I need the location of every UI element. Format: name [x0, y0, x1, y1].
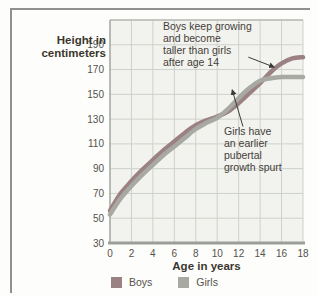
x-tick-label: 4 [150, 248, 156, 259]
growth-chart-figure: 30507090110130150170190024681012141618 H… [0, 0, 317, 296]
legend-label-girls: Girls [196, 276, 218, 288]
x-tick-label: 16 [276, 248, 288, 259]
y-tick-label: 150 [87, 89, 104, 100]
x-tick-label: 18 [297, 248, 309, 259]
y-tick-label: 130 [87, 114, 104, 125]
legend-swatch-girls [178, 277, 189, 288]
y-tick-label: 70 [93, 188, 105, 199]
x-tick-label: 12 [233, 248, 245, 259]
x-tick-label: 2 [129, 248, 135, 259]
chart-legend: Boys Girls [111, 276, 218, 288]
annotation-girls-growth-spurt: Girls have an earlier pubertal growth sp… [224, 125, 282, 173]
annotation-boys-keep-growing: Boys keep growing and become taller than… [163, 20, 252, 68]
y-tick-label: 110 [88, 138, 104, 149]
x-axis-title: Age in years [110, 260, 303, 272]
legend-swatch-boys [111, 277, 122, 288]
y-tick-label: 170 [87, 64, 104, 75]
legend-item-boys: Boys [111, 276, 152, 288]
x-tick-label: 0 [107, 248, 113, 259]
x-tick-label: 10 [212, 248, 224, 259]
x-tick-label: 6 [172, 248, 178, 259]
y-tick-label: 30 [93, 238, 105, 249]
y-axis-title: Height in centimeters [16, 34, 106, 60]
x-tick-label: 14 [255, 248, 267, 259]
y-tick-label: 50 [93, 213, 105, 224]
legend-label-boys: Boys [129, 276, 152, 288]
x-tick-label: 8 [193, 248, 199, 259]
legend-item-girls: Girls [178, 276, 218, 288]
y-tick-label: 90 [93, 163, 105, 174]
